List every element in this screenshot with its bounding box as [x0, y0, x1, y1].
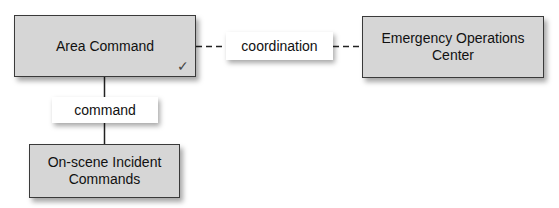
area-command-label: Area Command	[56, 38, 154, 55]
coordination-label-text: coordination	[241, 38, 317, 54]
eoc-label-line2: Center	[432, 47, 474, 64]
coordination-edge-label: coordination	[226, 32, 333, 60]
command-edge-label: command	[52, 97, 158, 123]
eoc-node: Emergency Operations Center	[362, 16, 544, 78]
onscene-node: On-scene Incident Commands	[29, 144, 180, 198]
onscene-label-line2: Commands	[69, 171, 141, 188]
checkmark-icon: ✓	[177, 59, 189, 73]
area-command-node: Area Command ✓	[14, 15, 196, 77]
eoc-label-line1: Emergency Operations	[381, 30, 524, 47]
onscene-label-line1: On-scene Incident	[48, 154, 162, 171]
command-label-text: command	[74, 102, 135, 118]
